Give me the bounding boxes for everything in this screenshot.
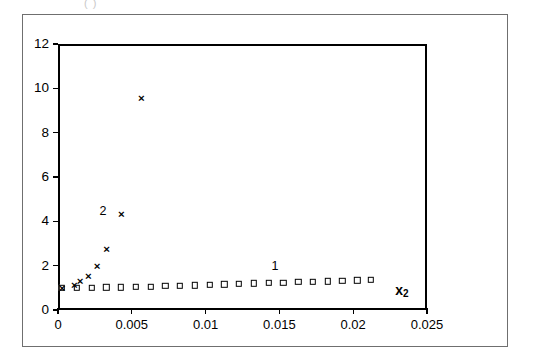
data-point-series-2: × xyxy=(84,271,93,280)
data-point-series-1 xyxy=(368,277,374,283)
x-axis-title: x2 xyxy=(395,283,408,299)
x-axis-line xyxy=(58,308,427,310)
x-axis-tick-label: 0 xyxy=(54,318,61,331)
y-axis-tick-label: 4 xyxy=(41,215,49,229)
data-point-series-2: × xyxy=(93,261,102,270)
y-axis-tick-label: 0 xyxy=(41,303,49,317)
data-point-series-1 xyxy=(162,283,168,289)
data-point-series-2: × xyxy=(102,245,111,254)
data-point-series-1 xyxy=(324,278,330,284)
y-axis-tick xyxy=(53,176,58,177)
x-axis-tick-label: 0.005 xyxy=(116,318,149,331)
x-axis-tick-label: 0.01 xyxy=(193,318,218,331)
y-axis-tick-label: 6 xyxy=(41,170,49,184)
data-point-series-1 xyxy=(280,279,286,285)
data-point-series-1 xyxy=(310,278,316,284)
series-label-1: 1 xyxy=(271,259,278,272)
data-point-series-1 xyxy=(251,280,257,286)
x-axis-tick xyxy=(205,308,206,314)
y-axis-tick xyxy=(53,132,58,133)
x-axis-tick xyxy=(131,308,132,314)
x-axis-title-subscript: 2 xyxy=(403,288,409,299)
data-point-series-1 xyxy=(206,282,212,288)
data-point-series-2: × xyxy=(137,94,146,103)
x-axis-tick xyxy=(353,308,354,314)
figure-caption: ( ) xyxy=(84,0,97,9)
data-point-series-1 xyxy=(339,278,345,284)
y-axis-tick xyxy=(53,43,58,44)
y-axis-tick-label: 8 xyxy=(41,126,49,140)
data-point-series-2: × xyxy=(117,209,126,218)
x-axis-tick xyxy=(279,308,280,314)
data-point-series-1 xyxy=(147,283,153,289)
data-point-series-1 xyxy=(118,284,124,290)
data-point-series-1 xyxy=(103,284,109,290)
y-axis-line xyxy=(58,44,60,310)
data-point-series-1 xyxy=(236,281,242,287)
y-axis-tick-label: 12 xyxy=(34,37,49,51)
data-point-series-1 xyxy=(221,281,227,287)
series-label-2: 2 xyxy=(100,205,107,218)
data-point-series-1 xyxy=(192,282,198,288)
data-point-series-1 xyxy=(354,277,360,283)
y-axis-tick-label: 2 xyxy=(41,259,49,273)
x-axis-tick-label: 0.025 xyxy=(411,318,444,331)
data-point-series-1 xyxy=(295,279,301,285)
y-axis-tick-label: 10 xyxy=(34,82,49,96)
data-point-series-2: × xyxy=(57,283,66,292)
y-axis-tick xyxy=(53,265,58,266)
x-axis-tick xyxy=(426,308,427,314)
plot-top-border xyxy=(58,44,427,46)
data-point-series-1 xyxy=(265,280,271,286)
x-axis-title-base: x xyxy=(395,282,403,298)
plot-area: 02468101200.0050.010.0150.020.025×××××××… xyxy=(58,44,427,310)
y-axis-tick xyxy=(53,221,58,222)
chart-figure: ( ) 02468101200.0050.010.0150.020.025×××… xyxy=(0,0,537,362)
data-point-series-1 xyxy=(133,284,139,290)
data-point-series-1 xyxy=(177,282,183,288)
plot-right-border xyxy=(425,44,427,310)
x-axis-tick-label: 0.015 xyxy=(263,318,296,331)
data-point-series-1 xyxy=(88,285,94,291)
y-axis-tick xyxy=(53,88,58,89)
x-axis-tick-label: 0.02 xyxy=(341,318,366,331)
x-axis-tick xyxy=(57,308,58,314)
